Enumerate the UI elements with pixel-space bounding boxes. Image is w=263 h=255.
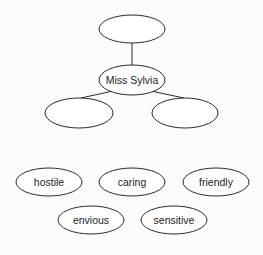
word-label: hostile: [34, 176, 65, 188]
node-oval: [45, 98, 113, 128]
web-node-left[interactable]: [45, 98, 113, 128]
word-label: envious: [73, 214, 109, 226]
word-label: sensitive: [154, 214, 195, 226]
node-label: Miss Sylvia: [106, 74, 159, 86]
web-node-right[interactable]: [152, 98, 218, 128]
edge-center-right: [151, 91, 184, 98]
character-web-diagram: Miss Sylvia hostile caring friendly envi…: [0, 0, 263, 255]
word-bank-hostile[interactable]: hostile: [16, 168, 82, 196]
word-label: caring: [118, 176, 147, 188]
node-oval: [99, 15, 165, 43]
node-oval: [152, 98, 218, 128]
word-bank-friendly[interactable]: friendly: [183, 168, 249, 196]
word-bank-envious[interactable]: envious: [58, 206, 124, 234]
edge-center-left: [81, 91, 113, 98]
web-node-center: Miss Sylvia: [99, 65, 165, 95]
word-bank-sensitive[interactable]: sensitive: [141, 206, 207, 234]
web-node-top[interactable]: [99, 15, 165, 43]
word-bank-caring[interactable]: caring: [99, 168, 165, 196]
word-label: friendly: [199, 176, 234, 188]
